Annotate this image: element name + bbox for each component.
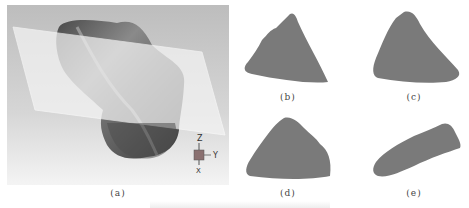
- axis-x-label: X: [196, 167, 201, 175]
- panel-a-3d-model: Z Y X: [7, 5, 229, 185]
- section-shape-c: [373, 12, 459, 83]
- panel-e-label: (e): [406, 188, 421, 198]
- panel-c-label: (c): [406, 92, 421, 102]
- figure-caption-cutoff: [150, 201, 330, 208]
- panel-b-label: (b): [280, 92, 296, 102]
- panel-c-section: [370, 8, 466, 88]
- panel-d-label: (d): [280, 188, 296, 198]
- section-shape-b: [245, 13, 328, 82]
- axis-z-label: Z: [197, 134, 203, 143]
- section-shape-e: [373, 123, 460, 176]
- panel-b-section: [240, 8, 340, 88]
- panel-d-section: [240, 112, 340, 188]
- axis-y-label: Y: [212, 151, 218, 160]
- rock-3d-render: Z Y X: [7, 5, 229, 185]
- panel-e-section: [370, 120, 466, 182]
- section-shape-d: [246, 118, 330, 179]
- panel-a-label: (a): [110, 188, 125, 198]
